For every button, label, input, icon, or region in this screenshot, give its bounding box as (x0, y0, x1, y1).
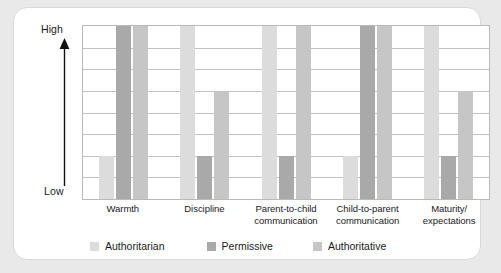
bar[interactable] (424, 26, 439, 199)
bar[interactable] (116, 26, 131, 199)
legend-item-authoritative[interactable]: Authoritative (313, 240, 386, 252)
legend-swatch-icon (90, 242, 99, 251)
y-axis-low-label: Low (44, 185, 64, 197)
category-label-4: Maturity/ expectations (408, 203, 490, 226)
bar[interactable] (214, 91, 229, 199)
plot-area (82, 25, 490, 200)
legend-item-permissive[interactable]: Permissive (207, 240, 273, 252)
bar[interactable] (99, 156, 114, 199)
bar[interactable] (180, 26, 195, 199)
bar-group (164, 26, 245, 199)
bar[interactable] (360, 26, 375, 199)
bar[interactable] (458, 91, 473, 199)
category-label-1: Discipline (164, 203, 246, 226)
chart-figure: High Low WarmthDisciplineParent-to-child… (0, 0, 501, 273)
bar[interactable] (377, 26, 392, 199)
legend-label: Authoritarian (105, 240, 165, 252)
legend-swatch-icon (313, 242, 322, 251)
bar[interactable] (197, 156, 212, 199)
legend-label: Authoritative (328, 240, 386, 252)
up-arrow-icon (59, 38, 70, 186)
legend-swatch-icon (207, 242, 216, 251)
legend-label: Permissive (222, 240, 273, 252)
bars-layer (83, 26, 489, 199)
category-label-3: Child-to-parent communication (327, 203, 409, 226)
bar-group (327, 26, 408, 199)
y-axis-high-label: High (41, 23, 63, 35)
bar[interactable] (133, 26, 148, 199)
bar[interactable] (296, 26, 311, 199)
chart-legend: AuthoritarianPermissiveAuthoritative (82, 240, 482, 252)
category-label-2: Parent-to-child communication (245, 203, 327, 226)
bar[interactable] (262, 26, 277, 199)
bar-group (245, 26, 326, 199)
bar[interactable] (441, 156, 456, 199)
category-label-0: Warmth (82, 203, 164, 226)
bar[interactable] (343, 156, 358, 199)
x-axis-category-labels: WarmthDisciplineParent-to-child communic… (82, 203, 490, 226)
bar-group (408, 26, 489, 199)
bar-group (83, 26, 164, 199)
bar[interactable] (279, 156, 294, 199)
chart-card: High Low WarmthDisciplineParent-to-child… (13, 7, 481, 260)
legend-item-authoritarian[interactable]: Authoritarian (90, 240, 165, 252)
